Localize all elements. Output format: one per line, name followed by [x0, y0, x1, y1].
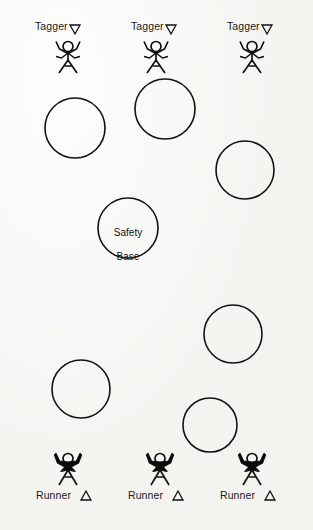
triangle-down-outline-icon [262, 25, 272, 34]
triangle-down-outline-icon [166, 25, 176, 34]
tagger-label: Tagger [227, 20, 260, 32]
tagger-figure-group [56, 42, 264, 74]
triangle-up-outline-icon [265, 491, 275, 500]
obstacle-circle [45, 98, 105, 158]
obstacle-circle [216, 141, 274, 199]
tagger-figure [56, 42, 80, 74]
runner-figure [147, 454, 174, 486]
tagger-label: Tagger [35, 20, 68, 32]
obstacle-circle [204, 305, 262, 363]
safety-base-label-line2: Base [98, 251, 158, 263]
runner-label: Runner [220, 489, 255, 501]
tag-game-field-diagram: Tagger Tagger Tagger Runner Runner Runne… [0, 0, 313, 530]
safety-base-label-line1: Safety [98, 227, 158, 239]
triangle-up-outline-icon [81, 491, 91, 500]
triangle-up-outline-icon [173, 491, 183, 500]
safety-base-label: Safety Base [98, 215, 158, 275]
runner-label: Runner [128, 489, 163, 501]
runner-figure-group [55, 454, 266, 486]
runner-figure [55, 454, 82, 486]
triangle-down-outline-icon [70, 25, 80, 34]
obstacle-circle [183, 398, 237, 452]
obstacle-circle [52, 360, 110, 418]
runner-label: Runner [36, 489, 71, 501]
runner-figure [239, 454, 266, 486]
obstacle-circle [135, 79, 195, 139]
tagger-figure [144, 42, 168, 74]
tagger-label: Tagger [131, 20, 164, 32]
tagger-figure [240, 42, 264, 74]
obstacle-circle-group [45, 79, 274, 452]
